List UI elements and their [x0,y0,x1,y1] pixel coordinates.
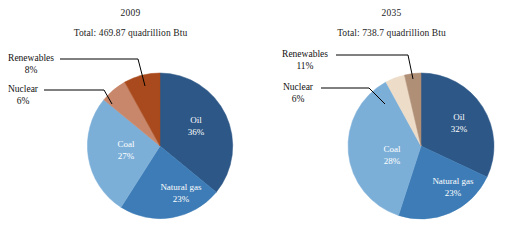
callout-renewables-pct-2035: 11% [273,60,337,72]
callout-line-renewables-2035 [336,55,413,79]
energy-consumption-pie-figure: 2009 Total: 469.87 quadrillion Btu Oi [0,0,522,236]
pie-svg-2035: Oil 32% Natural gas 23% Coal 28% [261,0,522,236]
slice-label-oil-2009: Oil [190,115,202,125]
callout-nuclear-2009: Nuclear 6% [0,83,46,107]
slice-pct-coal-2035: 28% [384,156,401,166]
slice-label-natural-gas-2009: Natural gas [160,182,202,192]
slice-label-natural-gas-2035: Natural gas [432,176,474,186]
chart-panel-2035: 2035 Total: 738.7 quadrillion Btu Oil [261,0,522,236]
callout-nuclear-label-2035: Nuclear [274,81,322,93]
callout-nuclear-pct-2035: 6% [274,93,322,105]
callout-line-nuclear-2009 [44,90,112,104]
callout-nuclear-pct-2009: 6% [0,95,46,107]
callout-renewables-label-2009: Renewables [0,52,62,64]
chart-panel-2009: 2009 Total: 469.87 quadrillion Btu Oi [0,0,261,236]
callout-renewables-2009: Renewables 8% [0,52,62,76]
pie-chart-2009: Oil 36% Natural gas 23% Coal 27% Renewab… [0,0,261,236]
callout-nuclear-2035: Nuclear 6% [274,81,322,105]
slice-label-coal-2035: Coal [384,144,401,154]
slice-pct-natural-gas-2009: 23% [173,194,190,204]
callout-nuclear-label-2009: Nuclear [0,83,46,95]
slice-label-oil-2035: Oil [453,112,465,122]
slice-pct-oil-2009: 36% [188,127,205,137]
pie-svg-2009: Oil 36% Natural gas 23% Coal 27% [0,0,261,236]
callout-renewables-2035: Renewables 11% [273,48,337,72]
callout-renewables-pct-2009: 8% [0,64,62,76]
slice-pct-oil-2035: 32% [451,124,468,134]
slice-label-coal-2009: Coal [118,139,135,149]
slice-pct-coal-2009: 27% [118,151,135,161]
slice-pct-natural-gas-2035: 23% [445,188,462,198]
pie-chart-2035: Oil 32% Natural gas 23% Coal 28% Renewab… [261,0,522,236]
callout-renewables-label-2035: Renewables [273,48,337,60]
